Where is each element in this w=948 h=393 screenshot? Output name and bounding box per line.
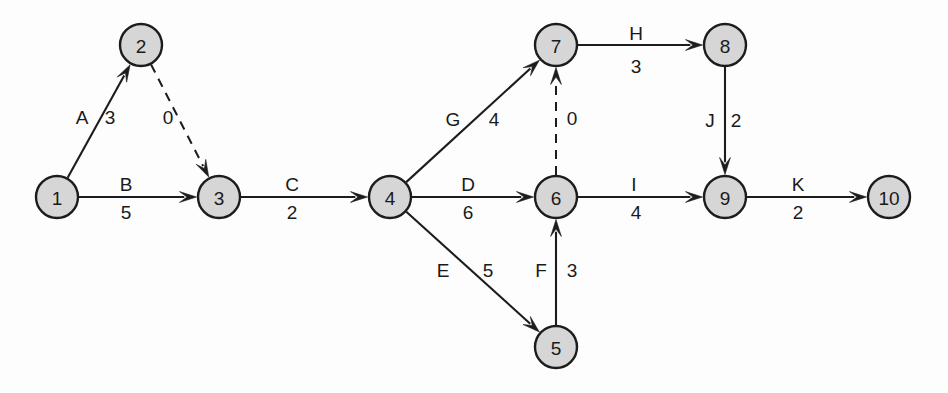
edge-activity-label-A: A [76, 107, 89, 128]
edge-duration-label-K: 2 [793, 202, 804, 223]
edge-duration-label-C: 2 [287, 202, 298, 223]
edge-duration-label-B: 5 [121, 202, 132, 223]
edge-duration-label-E: 5 [483, 260, 494, 281]
node-10[interactable]: 10 [868, 176, 910, 218]
node-label-2: 2 [136, 36, 147, 57]
network-diagram-svg: 12345678910 A30B5C2G4D6E5F30H3I4J2K2 [0, 0, 948, 393]
node-label-7: 7 [551, 36, 562, 57]
arrowhead-A [117, 65, 130, 82]
edge-duration-label-dummy-6-7: 0 [567, 108, 578, 129]
node-6[interactable]: 6 [535, 176, 577, 218]
node-9[interactable]: 9 [704, 176, 746, 218]
node-label-3: 3 [214, 188, 225, 209]
node-1[interactable]: 1 [36, 176, 78, 218]
node-2[interactable]: 2 [120, 24, 162, 66]
edge-G [406, 68, 530, 182]
edge-activity-label-D: D [461, 174, 475, 195]
edge-duration-label-H: 3 [631, 56, 642, 77]
edge-activity-label-I: I [631, 174, 636, 195]
edge-activity-label-F: F [535, 260, 547, 281]
network-diagram-canvas: 12345678910 A30B5C2G4D6E5F30H3I4J2K2 [0, 0, 948, 393]
node-7[interactable]: 7 [535, 24, 577, 66]
edge-activity-label-B: B [120, 174, 133, 195]
edge-activity-label-E: E [437, 260, 450, 281]
edge-duration-label-A: 3 [105, 107, 116, 128]
edge-activity-label-K: K [792, 174, 805, 195]
node-4[interactable]: 4 [369, 176, 411, 218]
node-label-9: 9 [720, 188, 731, 209]
node-8[interactable]: 8 [704, 24, 746, 66]
node-label-10: 10 [878, 188, 899, 209]
arrowhead-dummy-2-3 [196, 159, 209, 177]
node-5[interactable]: 5 [535, 326, 577, 368]
node-label-1: 1 [52, 188, 63, 209]
edge-dummy-2-3 [151, 65, 203, 167]
edge-duration-label-G: 4 [489, 109, 500, 130]
edge-duration-label-D: 6 [463, 202, 474, 223]
edge-activity-label-J: J [705, 110, 715, 131]
edge-activity-label-C: C [285, 174, 299, 195]
edge-duration-label-dummy-2-3: 0 [163, 107, 174, 128]
arrowhead-dummy-6-7 [551, 68, 562, 85]
node-label-5: 5 [551, 338, 562, 359]
node-3[interactable]: 3 [198, 176, 240, 218]
edge-duration-label-F: 3 [567, 260, 578, 281]
edge-duration-label-I: 4 [631, 202, 642, 223]
edge-duration-label-J: 2 [731, 110, 742, 131]
edge-E [406, 212, 530, 324]
edge-activity-label-G: G [446, 109, 461, 130]
node-label-4: 4 [385, 188, 396, 209]
edge-activity-label-H: H [629, 23, 643, 44]
node-label-8: 8 [720, 36, 731, 57]
node-label-6: 6 [551, 188, 562, 209]
